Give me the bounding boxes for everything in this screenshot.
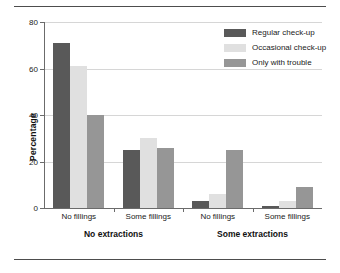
x-axis-group-label: No extractions — [54, 229, 174, 239]
legend-item[interactable]: Regular check-up — [224, 26, 326, 39]
bar[interactable] — [123, 150, 140, 208]
y-tick-label: 80 — [29, 18, 38, 27]
bar-chart-figure: Percentage 020406080 No fillingsSome fil… — [0, 0, 340, 273]
x-axis-category-label: No fillings — [39, 212, 119, 221]
x-axis-tick-separator — [183, 208, 184, 212]
legend-label: Regular check-up — [252, 29, 315, 37]
bar[interactable] — [140, 138, 157, 208]
x-axis-tick-separator — [114, 208, 115, 212]
legend-label: Only with trouble — [252, 59, 312, 67]
top-divider-rule — [14, 6, 326, 7]
legend-item[interactable]: Occasional check-up — [224, 41, 326, 54]
y-tick-label: 20 — [29, 157, 38, 166]
bar[interactable] — [226, 150, 243, 208]
x-axis-category-label: Some fillings — [108, 212, 188, 221]
bar-group-2 — [123, 22, 174, 208]
y-tick-label: 40 — [29, 111, 38, 120]
legend-swatch-icon — [224, 44, 246, 52]
x-axis-category-label: Some fillings — [247, 212, 327, 221]
bar[interactable] — [192, 201, 209, 208]
chart-legend: Regular check-upOccasional check-upOnly … — [224, 26, 326, 71]
bar[interactable] — [53, 43, 70, 208]
y-tick-mark — [40, 208, 44, 209]
x-axis-group-label: Some extractions — [193, 229, 313, 239]
bar[interactable] — [296, 187, 313, 208]
bar[interactable] — [87, 115, 104, 208]
y-tick-mark — [40, 22, 44, 23]
bar[interactable] — [262, 206, 279, 208]
y-tick-label: 60 — [29, 64, 38, 73]
x-axis-tick-separator — [253, 208, 254, 212]
y-tick-mark — [40, 115, 44, 116]
legend-swatch-icon — [224, 59, 246, 67]
y-axis-title: Percentage — [28, 113, 38, 161]
bar[interactable] — [279, 201, 296, 208]
y-tick-label: 0 — [34, 204, 38, 213]
legend-item[interactable]: Only with trouble — [224, 56, 326, 69]
bar-group-1 — [53, 22, 104, 208]
bar[interactable] — [70, 66, 87, 208]
x-axis-category-label: No fillings — [178, 212, 258, 221]
bottom-divider-rule — [14, 259, 326, 260]
y-tick-mark — [40, 69, 44, 70]
bar[interactable] — [157, 148, 174, 208]
legend-swatch-icon — [224, 29, 246, 37]
legend-label: Occasional check-up — [252, 44, 326, 52]
bar[interactable] — [209, 194, 226, 208]
y-tick-mark — [40, 162, 44, 163]
